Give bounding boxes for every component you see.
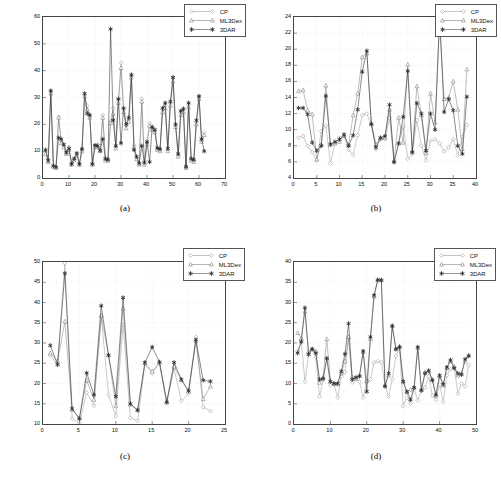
x-tick-label: 40 [143,181,149,187]
panel-b-caption: (b) [251,203,501,213]
y-tick-label: 18 [285,61,291,67]
panel-d-caption: (d) [251,451,501,461]
y-tick-label: 25 [34,359,40,365]
y-tick-label: 14 [285,94,291,100]
panel-c-caption: (c) [0,451,250,461]
y-tick-label: 50 [34,40,40,46]
grid-lines [294,262,476,424]
y-tick-label: 40 [34,299,40,305]
y-tick-label: 30 [285,299,291,305]
x-tick-label: 10 [335,181,341,187]
x-tick-label: 35 [449,181,455,187]
legend-marker-star-filled [186,269,216,278]
y-tick-label: 45 [34,278,40,284]
panel-d-legend: CPML3Dex3DAR [434,248,496,281]
x-tick-label: 10 [65,181,71,187]
legend-marker-star-filled [187,25,217,34]
legend-item-3dar[interactable]: 3DAR [187,25,242,34]
panel-c-x-axis: 0510152025 [42,427,226,439]
x-tick-label: 5 [314,181,317,187]
y-tick-label: 8 [288,142,291,148]
series-3dar [297,17,469,164]
panel-b-y-axis: 4681012141618202224 [251,16,291,179]
panel-d: 0510152025303540 01020304050 CPML3Dex3DA… [251,243,501,485]
panel-a-caption: (a) [0,203,250,213]
y-tick-label: 30 [34,94,40,100]
legend-label: 3DAR [471,27,487,33]
legend-label: CP [219,253,227,259]
y-tick-label: 35 [285,278,291,284]
panel-a-x-axis: 010203040506070 [42,181,226,193]
legend-label: ML3Dex [470,262,492,268]
legend-item-ml3dex[interactable]: ML3Dex [437,260,492,269]
legend-label: CP [471,9,479,15]
panel-c-legend: CPML3Dex3DAR [183,248,245,281]
series-cp [297,112,469,166]
legend-marker-diamond-open [438,7,468,16]
series-3dar [44,27,207,170]
y-tick-label: 5 [288,400,291,406]
legend-marker-star-filled [438,25,468,34]
x-tick-label: 10 [326,427,332,433]
x-tick-label: 20 [184,427,190,433]
legend-label: 3DAR [220,27,236,33]
y-tick-label: 40 [285,258,291,264]
panel-a-series-layer [43,17,225,178]
legend-marker-diamond-open [187,7,217,16]
legend-item-ml3dex[interactable]: ML3Dex [187,16,242,25]
panel-c: 101520253035404550 0510152025 CPML3Dex3D… [0,243,250,485]
legend-marker-triangle-open [186,260,216,269]
y-tick-label: 40 [34,67,40,73]
y-tick-label: 10 [285,126,291,132]
legend-item-3dar[interactable]: 3DAR [438,25,493,34]
series-cp [48,262,212,424]
series-3dar [48,271,212,421]
y-tick-label: 4 [288,174,291,180]
y-tick-label: 22 [285,29,291,35]
legend-item-3dar[interactable]: 3DAR [437,269,492,278]
y-tick-label: 60 [34,13,40,19]
legend-item-ml3dex[interactable]: ML3Dex [438,16,493,25]
legend-item-cp[interactable]: CP [438,7,493,16]
y-tick-label: 16 [285,77,291,83]
figure-container: 0102030405060 010203040506070 CPML3Dex3D… [0,0,501,485]
panel-b-legend: CPML3Dex3DAR [435,4,497,37]
panel-d-x-axis: 01020304050 [293,427,477,439]
legend-label: CP [220,9,228,15]
legend-label: ML3Dex [220,18,242,24]
legend-item-3dar[interactable]: 3DAR [186,269,241,278]
chart-svg [294,262,476,424]
panel-d-series-layer [294,262,476,424]
legend-marker-star-filled [437,269,467,278]
panel-a: 0102030405060 010203040506070 CPML3Dex3D… [0,0,250,242]
panel-b-x-axis: 0510152025303540 [293,181,477,193]
y-tick-label: 20 [285,45,291,51]
panel-c-series-layer [43,262,225,424]
y-tick-label: 15 [285,359,291,365]
legend-item-cp[interactable]: CP [437,251,492,260]
y-tick-label: 15 [34,400,40,406]
legend-marker-triangle-open [437,260,467,269]
series-cp [296,336,471,407]
y-tick-label: 35 [34,319,40,325]
x-tick-label: 60 [195,181,201,187]
legend-item-cp[interactable]: CP [187,7,242,16]
y-tick-label: 50 [34,258,40,264]
chart-svg [43,17,225,178]
y-tick-label: 24 [285,13,291,19]
legend-item-cp[interactable]: CP [186,251,241,260]
x-tick-label: 40 [435,427,441,433]
grid-lines [43,262,225,424]
x-tick-label: 70 [221,181,227,187]
y-tick-label: 0 [288,420,291,426]
x-tick-label: 0 [291,427,294,433]
y-tick-label: 20 [285,339,291,345]
x-tick-label: 40 [472,181,478,187]
y-tick-label: 30 [34,339,40,345]
panel-b: 4681012141618202224 0510152025303540 CPM… [251,0,501,242]
legend-item-ml3dex[interactable]: ML3Dex [186,260,241,269]
panel-c-y-axis: 101520253035404550 [0,261,40,425]
x-tick-label: 0 [291,181,294,187]
x-tick-label: 0 [40,181,43,187]
x-tick-label: 10 [112,427,118,433]
